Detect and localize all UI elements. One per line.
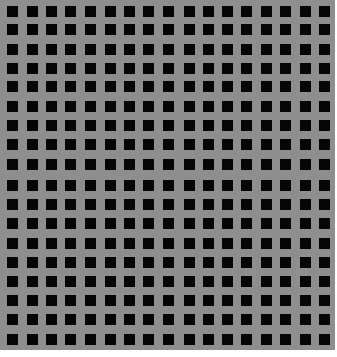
- grid-square: [300, 218, 311, 229]
- grid-square: [222, 81, 233, 92]
- grid-square: [203, 238, 214, 249]
- grid-square: [241, 44, 252, 55]
- grid-square: [85, 24, 96, 35]
- grid-square: [7, 44, 18, 55]
- grid-square: [184, 276, 195, 287]
- grid-square: [300, 44, 311, 55]
- grid-square: [65, 276, 76, 287]
- grid-square: [241, 257, 252, 268]
- grid-square: [105, 139, 116, 150]
- grid-square: [163, 238, 174, 249]
- grid-square: [7, 81, 18, 92]
- grid-square: [7, 334, 18, 345]
- grid-square: [105, 199, 116, 210]
- grid-square: [7, 159, 18, 170]
- grid-square: [124, 314, 135, 325]
- grid-square: [46, 295, 57, 306]
- grid-square: [280, 238, 291, 249]
- grid-square: [124, 334, 135, 345]
- grid-square: [143, 180, 154, 191]
- grid-square: [124, 295, 135, 306]
- grid-square: [27, 159, 38, 170]
- grid-square: [46, 24, 57, 35]
- grid-square: [143, 238, 154, 249]
- grid-square: [203, 159, 214, 170]
- grid-square: [105, 63, 116, 74]
- grid-square: [300, 238, 311, 249]
- grid-square: [46, 199, 57, 210]
- grid-square: [163, 120, 174, 131]
- grid-square: [46, 44, 57, 55]
- grid-square: [65, 238, 76, 249]
- grid-square: [46, 314, 57, 325]
- grid-square: [261, 334, 272, 345]
- grid-square: [203, 63, 214, 74]
- grid-square: [27, 101, 38, 112]
- grid-square: [143, 63, 154, 74]
- grid-square: [280, 218, 291, 229]
- grid-square: [319, 276, 330, 287]
- grid-square: [85, 199, 96, 210]
- grid-square: [261, 81, 272, 92]
- grid-square: [7, 120, 18, 131]
- grid-square: [300, 276, 311, 287]
- grid-square: [124, 257, 135, 268]
- grid-square: [46, 159, 57, 170]
- grid-square: [280, 101, 291, 112]
- grid-square: [184, 199, 195, 210]
- grid-square: [65, 334, 76, 345]
- grid-square: [85, 44, 96, 55]
- grid-square: [105, 238, 116, 249]
- grid-square: [27, 334, 38, 345]
- grid-square: [46, 334, 57, 345]
- grid-square: [65, 199, 76, 210]
- grid-square: [184, 218, 195, 229]
- grid-square: [222, 295, 233, 306]
- grid-square: [184, 159, 195, 170]
- grid-square: [85, 314, 96, 325]
- grid-square: [261, 139, 272, 150]
- grid-square: [241, 238, 252, 249]
- grid-square: [319, 238, 330, 249]
- grid-square: [319, 120, 330, 131]
- grid-square: [85, 295, 96, 306]
- grid-square: [241, 63, 252, 74]
- grid-square: [27, 44, 38, 55]
- grid-square: [319, 101, 330, 112]
- grid-square: [65, 24, 76, 35]
- grid-square: [143, 24, 154, 35]
- grid-square: [7, 238, 18, 249]
- grid-square: [300, 295, 311, 306]
- grid-square: [300, 314, 311, 325]
- grid-square: [319, 180, 330, 191]
- grid-square: [46, 276, 57, 287]
- grid-square: [163, 180, 174, 191]
- grid-square: [46, 63, 57, 74]
- grid-square: [65, 6, 76, 17]
- grid-square: [203, 218, 214, 229]
- grid-square: [46, 81, 57, 92]
- grid-square: [163, 334, 174, 345]
- grid-square: [85, 63, 96, 74]
- grid-square: [319, 6, 330, 17]
- grid-square: [27, 238, 38, 249]
- grid-square: [319, 139, 330, 150]
- grid-square: [241, 24, 252, 35]
- grid-square: [261, 295, 272, 306]
- grid-square: [7, 295, 18, 306]
- grid-square: [65, 159, 76, 170]
- grid-square: [222, 334, 233, 345]
- grid-square: [46, 101, 57, 112]
- grid-square: [85, 6, 96, 17]
- grid-square: [85, 139, 96, 150]
- grid-square: [261, 276, 272, 287]
- grid-square: [280, 334, 291, 345]
- grid-square: [46, 257, 57, 268]
- grid-square: [222, 314, 233, 325]
- grid-square: [143, 6, 154, 17]
- grid-square: [184, 238, 195, 249]
- grid-square: [203, 199, 214, 210]
- grid-square: [319, 159, 330, 170]
- grid-square: [280, 44, 291, 55]
- grid-square: [241, 6, 252, 17]
